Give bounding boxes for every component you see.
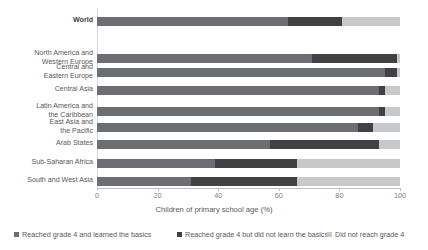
bar-segment xyxy=(397,54,400,63)
x-tick-label: 60 xyxy=(275,191,283,200)
bar-segment xyxy=(312,54,397,63)
legend-swatch-icon xyxy=(177,232,182,237)
legend-item[interactable]: Reached grade 4 but did not learn the ba… xyxy=(177,230,328,239)
x-tick-label: 80 xyxy=(335,191,343,200)
bar-segment xyxy=(270,140,379,149)
category-label: Arab States xyxy=(0,139,93,147)
bar-segment xyxy=(97,17,288,26)
bar-segment xyxy=(97,54,312,63)
legend-swatch-icon xyxy=(327,232,332,237)
bar-segment xyxy=(385,86,400,95)
bar-segment xyxy=(97,68,385,77)
legend-item[interactable]: Reached grade 4 and learned the basics xyxy=(14,230,151,239)
x-tick-mark xyxy=(97,188,98,191)
bar-row xyxy=(97,177,400,186)
chart-legend: Reached grade 4 and learned the basicsRe… xyxy=(0,230,428,242)
bar-row xyxy=(97,123,400,132)
x-tick-mark xyxy=(158,188,159,191)
bar-segment xyxy=(358,123,373,132)
x-tick-mark xyxy=(218,188,219,191)
bar-segment xyxy=(215,159,297,168)
x-tick-label: 0 xyxy=(95,191,99,200)
x-tick-mark xyxy=(279,188,280,191)
category-label: Latin America and the Caribbean xyxy=(0,102,93,118)
bar-segment xyxy=(97,159,215,168)
bar-segment xyxy=(385,68,397,77)
bar-row xyxy=(97,68,400,77)
x-tick-label: 40 xyxy=(214,191,222,200)
bar-segment xyxy=(297,159,400,168)
bar-segment xyxy=(373,123,400,132)
bar-segment xyxy=(297,177,400,186)
x-axis-line xyxy=(97,188,400,189)
category-label: East Asia and the Pacific xyxy=(0,118,93,134)
x-tick-mark xyxy=(339,188,340,191)
bar-segment xyxy=(385,107,400,116)
stacked-bar-chart: WorldNorth America and Western EuropeCen… xyxy=(0,0,428,250)
bar-segment xyxy=(342,17,400,26)
bar-row xyxy=(97,17,400,26)
bar-row xyxy=(97,107,400,116)
x-tick-label: 100 xyxy=(394,191,406,200)
bar-row xyxy=(97,54,400,63)
x-axis-title: Children of primary school age (%) xyxy=(0,205,428,214)
bar-segment xyxy=(97,107,379,116)
x-tick-mark xyxy=(400,188,401,191)
category-label: World xyxy=(0,16,93,24)
bar-segment xyxy=(397,68,400,77)
bar-segment xyxy=(97,177,191,186)
bar-segment xyxy=(97,86,379,95)
bar-segment xyxy=(97,123,358,132)
bar-row xyxy=(97,140,400,149)
category-label: Central and Eastern Europe xyxy=(0,63,93,79)
legend-label: Reached grade 4 but did not learn the ba… xyxy=(185,230,328,239)
x-tick-label: 20 xyxy=(154,191,162,200)
legend-swatch-icon xyxy=(14,232,19,237)
bar-segment xyxy=(379,140,400,149)
legend-item[interactable]: Did not reach grade 4 xyxy=(327,230,404,239)
category-label: South and West Asia xyxy=(0,176,93,184)
category-label: Central Asia xyxy=(0,85,93,93)
plot-area xyxy=(97,8,400,188)
bar-row xyxy=(97,86,400,95)
legend-label: Reached grade 4 and learned the basics xyxy=(22,230,151,239)
legend-label: Did not reach grade 4 xyxy=(335,230,404,239)
bar-row xyxy=(97,159,400,168)
bar-segment xyxy=(288,17,343,26)
category-label: Sub-Saharan Africa xyxy=(0,158,93,166)
bar-segment xyxy=(97,140,270,149)
bar-segment xyxy=(191,177,297,186)
